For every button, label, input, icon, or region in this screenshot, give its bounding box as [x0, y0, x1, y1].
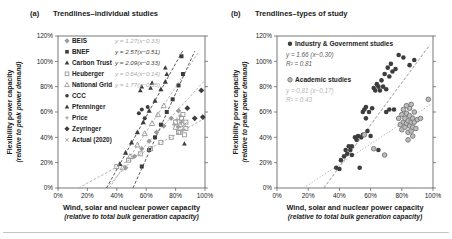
point-industry-government-studies [364, 116, 369, 121]
y-tick-label: 40% [40, 134, 53, 141]
legend-r2-academic-studies: R² = 0.43 [286, 96, 313, 103]
y-tick-label: 0% [44, 184, 54, 191]
panel-a: (a) Trendlines–individual studies 0%20%4… [0, 0, 226, 239]
legend-marker-actual-2020 [65, 138, 69, 142]
point-industry-government-studies [393, 67, 398, 72]
legend-marker-national-grid [65, 82, 70, 86]
point-academic-studies [412, 110, 417, 115]
point-industry-government-studies [387, 107, 392, 112]
y-tick-label: 0% [263, 184, 273, 191]
point-heuberger [182, 133, 186, 137]
legend-label-carbon-trust: Carbon Trust [72, 59, 113, 66]
y-tick-label: 120% [256, 32, 273, 39]
point-carbon-trust [152, 98, 157, 103]
point-industry-government-studies [350, 144, 355, 149]
x-tick-label: 40% [110, 192, 123, 199]
y-tick-label: 100% [37, 58, 54, 65]
page-bottom-rule [3, 232, 449, 233]
point-ccc [140, 107, 144, 111]
x-tick-label: 80% [395, 192, 408, 199]
point-price [175, 117, 180, 122]
point-industry-government-studies [364, 105, 369, 110]
y-axis-sublabel: (relative to peak power demand) [15, 62, 23, 163]
legend-equation-national-grid: y = 1.77(x−0.35) [114, 81, 160, 88]
y-tick-label: 20% [259, 159, 272, 166]
point-industry-government-studies [412, 58, 417, 63]
x-axis-sublabel: (relative to total bulk generation capac… [288, 213, 423, 221]
x-tick-label: 0% [272, 192, 282, 199]
point-industry-government-studies [396, 53, 401, 58]
trendline-academic-studies [304, 103, 433, 188]
legend-label-ccc: CCC [72, 92, 86, 99]
x-tick-label: 100% [425, 192, 442, 199]
point-academic-studies [410, 134, 415, 139]
legend-label-price: Price [72, 114, 88, 121]
point-industry-government-studies [376, 148, 381, 153]
point-industry-government-studies [350, 153, 355, 158]
legend-equation-heuberger: y = 0.64(x−0.14) [114, 70, 160, 77]
y-tick-label: 80% [40, 83, 53, 90]
point-industry-government-studies [368, 134, 373, 139]
point-pfenninger [163, 65, 168, 69]
point-industry-government-studies [389, 62, 394, 67]
point-industry-government-studies [385, 65, 390, 70]
x-tick-label: 20% [302, 192, 315, 199]
x-axis-label: Wind, solar and nuclear power capacity [287, 203, 425, 212]
plot-frame [277, 36, 433, 188]
point-price [172, 122, 177, 127]
y-tick-label: 120% [37, 32, 54, 39]
point-industry-government-studies [382, 72, 387, 77]
point-industry-government-studies [367, 110, 372, 115]
point-industry-government-studies [357, 165, 362, 170]
x-axis-sublabel: (relative to total bulk generation capac… [64, 213, 199, 221]
point-industry-government-studies [387, 74, 392, 79]
point-zeyringer [198, 88, 204, 94]
x-tick-label: 60% [364, 192, 377, 199]
legend-equation-beis: y = 1.27(x−0.33) [114, 37, 160, 44]
point-industry-government-studies [370, 106, 375, 111]
point-academic-studies [406, 138, 411, 143]
point-pfenninger [182, 141, 187, 145]
legend-label-national-grid: National Grid [72, 81, 112, 88]
legend-label-zeyringer: Zeyringer [72, 125, 102, 133]
point-beis [168, 116, 173, 121]
y-tick-label: 80% [259, 83, 272, 90]
point-beis [154, 130, 159, 135]
point-price [178, 114, 183, 119]
x-tick-label: 40% [333, 192, 346, 199]
legend-marker-heuberger [65, 72, 69, 76]
legend-equation-industry-government-studies: y = 1.66 (x−0.30) [285, 51, 334, 59]
point-academic-studies [409, 102, 414, 107]
legend-equation-academic-studies: y = 0.81 (x−0.17) [285, 87, 334, 95]
point-ccc [143, 116, 147, 120]
legend-r2-industry-government-studies: R² = 0.81 [286, 60, 312, 67]
point-carbon-trust [163, 79, 168, 84]
legend-equation-bnef: y = 2.57(x−0.51) [114, 48, 160, 55]
point-academic-studies [371, 146, 376, 151]
y-axis-sublabel: (relative to peak power demand) [241, 62, 249, 163]
point-pfenninger [164, 72, 169, 76]
point-industry-government-studies [384, 87, 389, 92]
point-industry-government-studies [337, 167, 342, 172]
point-carbon-trust [123, 150, 128, 155]
legend-marker-ccc [65, 94, 69, 98]
point-ccc [146, 105, 150, 109]
point-industry-government-studies [339, 158, 344, 163]
x-tick-label: 60% [140, 192, 153, 199]
legend-label-academic-studies: Academic studies [295, 76, 351, 83]
figure: (a) Trendlines–individual studies 0%20%4… [0, 0, 452, 239]
legend-label-beis: BEIS [72, 37, 88, 44]
legend-label-bnef: BNEF [72, 48, 89, 55]
point-industry-government-studies [378, 88, 383, 93]
point-academic-studies [362, 133, 367, 138]
point-academic-studies [426, 97, 431, 102]
point-bnef [147, 148, 151, 152]
point-national-grid [142, 131, 147, 136]
point-industry-government-studies [392, 107, 397, 112]
point-industry-government-studies [345, 152, 350, 157]
point-bnef [171, 97, 175, 101]
legend-marker-pfenninger [65, 104, 70, 108]
legend-label-actual-2020: Actual (2020) [72, 136, 112, 144]
point-academic-studies [404, 103, 409, 108]
point-industry-government-studies [407, 63, 412, 68]
